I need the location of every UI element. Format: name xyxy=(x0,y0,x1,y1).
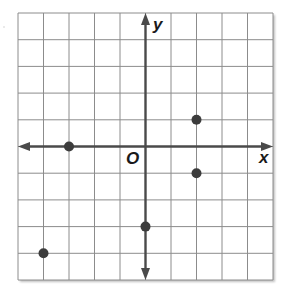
x-axis-label: x xyxy=(258,148,270,167)
coordinate-plane: y x O xyxy=(0,0,283,290)
y-axis-label: y xyxy=(152,15,164,34)
plotted-point xyxy=(192,168,202,178)
plotted-point xyxy=(64,142,74,152)
plotted-point xyxy=(141,222,151,232)
scan-artifact-dot xyxy=(3,26,5,28)
plotted-point xyxy=(192,115,202,125)
origin-label: O xyxy=(126,149,139,168)
plotted-point xyxy=(39,248,49,258)
